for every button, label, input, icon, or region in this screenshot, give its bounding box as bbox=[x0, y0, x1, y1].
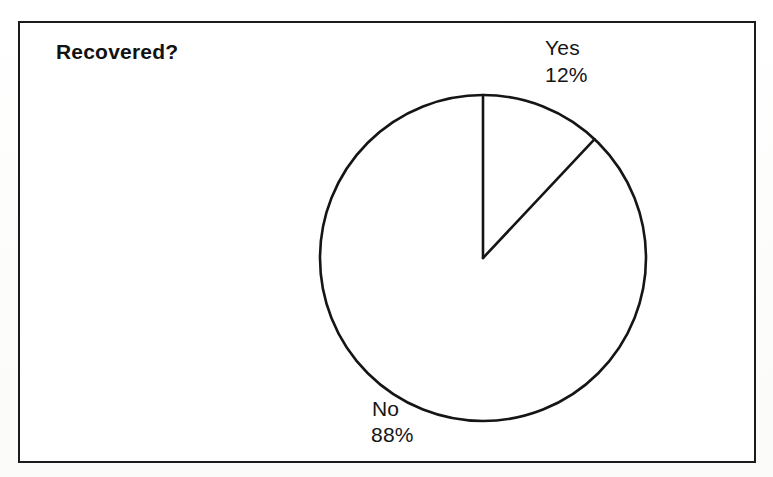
pie-label-yes-name: Yes bbox=[545, 36, 580, 60]
pie-label-yes-value: 12% bbox=[545, 63, 588, 87]
figure-screenshot: Recovered? Yes 12% No 88% bbox=[0, 0, 773, 477]
pie-label-no-value: 88% bbox=[371, 423, 414, 447]
pie-label-no-name: No bbox=[372, 397, 399, 421]
